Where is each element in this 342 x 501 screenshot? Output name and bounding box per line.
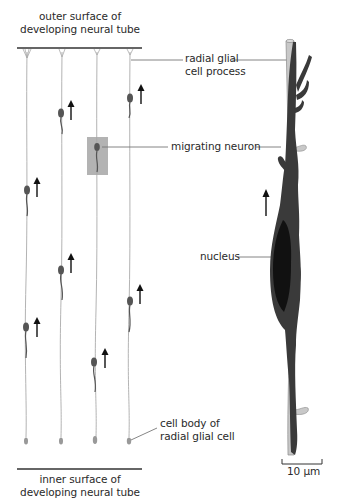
outer-surface-label-line1: outer surface of bbox=[15, 10, 145, 23]
scale-bar-label: 10 µm bbox=[287, 465, 320, 478]
right-migration-arrow bbox=[263, 189, 270, 216]
migrating-neurons bbox=[23, 94, 133, 393]
radial-glial-process-label-line2: cell process bbox=[185, 65, 246, 78]
migration-arrows bbox=[34, 84, 145, 368]
left-panel bbox=[17, 48, 145, 469]
scale-bar bbox=[282, 459, 322, 464]
radial-glial-process-label-line1: radial glial bbox=[185, 52, 246, 65]
glial-cell-body-label: cell body of radial glial cell bbox=[160, 417, 235, 443]
outer-surface-label-line2: developing neural tube bbox=[15, 23, 145, 36]
nucleus-label: nucleus bbox=[200, 250, 240, 263]
inner-surface-label: inner surface of developing neural tube bbox=[15, 473, 145, 499]
glial-end-feet bbox=[23, 49, 133, 58]
glial-cell-bodies bbox=[24, 436, 131, 445]
glial-cell-body-label-line2: radial glial cell bbox=[160, 430, 235, 443]
glial-cell-body-label-line1: cell body of bbox=[160, 417, 235, 430]
migrating-neuron-label: migrating neuron bbox=[171, 140, 261, 153]
outer-surface-label: outer surface of developing neural tube bbox=[15, 10, 145, 36]
right-panel bbox=[263, 39, 323, 464]
radial-glial-process-label: radial glial cell process bbox=[185, 52, 246, 78]
radial-glial-fibers bbox=[25, 52, 130, 437]
inner-surface-label-line1: inner surface of bbox=[15, 473, 145, 486]
inner-surface-label-line2: developing neural tube bbox=[15, 486, 145, 499]
